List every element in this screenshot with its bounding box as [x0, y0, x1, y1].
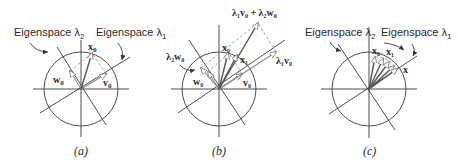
- panel-c: Eigenspace λ2 Eigenspace λ1 x₀ x₁ x (c): [305, 26, 452, 158]
- eigenspace-2-label: Eigenspace λ2: [14, 26, 85, 41]
- caption-a: (a): [74, 144, 88, 158]
- eigenspace-1-label: Eigenspace λ1: [96, 26, 167, 41]
- w0-vector: [208, 72, 219, 89]
- dashed-guide: [92, 53, 106, 74]
- dashed-guide: [258, 23, 276, 52]
- pointer-arrow: [30, 43, 48, 52]
- caption-c: (c): [363, 144, 376, 158]
- x-limit-label: x: [403, 64, 408, 75]
- w0-label: w₀: [193, 76, 203, 87]
- pointer-arrow: [118, 43, 123, 60]
- v0-label: v0: [103, 77, 112, 90]
- panel-a: Eigenspace λ2 Eigenspace λ1 x0 w0 v0 (a): [14, 26, 167, 158]
- eigenspace-power-method-figure: Eigenspace λ2 Eigenspace λ1 x0 w0 v0 (a)…: [0, 0, 458, 164]
- panel-b: λ₁v₀ + λ₂w₀ λ₁v₀ λ₂w₀ x₀ x₁ v₀ w₀ (b): [166, 7, 292, 158]
- pointer-arrow: [180, 65, 195, 70]
- v0-label: v₀: [243, 77, 251, 88]
- x0-label: x₀: [222, 42, 230, 53]
- w0-label: w0: [53, 74, 64, 87]
- lambda1-v0-label: λ₁v₀: [276, 55, 292, 66]
- sum-label: λ₁v₀ + λ₂w₀: [232, 7, 277, 18]
- eigenspace-1-line: [40, 57, 130, 113]
- x0-label: x0: [88, 41, 97, 54]
- x1-label: x₁: [240, 54, 248, 65]
- eigenspace-1-label: Eigenspace λ1: [381, 26, 452, 41]
- x1-label: x₁: [386, 46, 394, 57]
- lambda2-w0-label: λ₂w₀: [166, 51, 184, 62]
- x1-vector: [219, 55, 237, 89]
- eigenspace-2-label: Eigenspace λ2: [305, 26, 376, 41]
- caption-b: (b): [212, 144, 226, 158]
- pointer-arrow: [412, 44, 414, 56]
- x0-label: x₀: [372, 45, 380, 56]
- w0-vector: [70, 71, 81, 89]
